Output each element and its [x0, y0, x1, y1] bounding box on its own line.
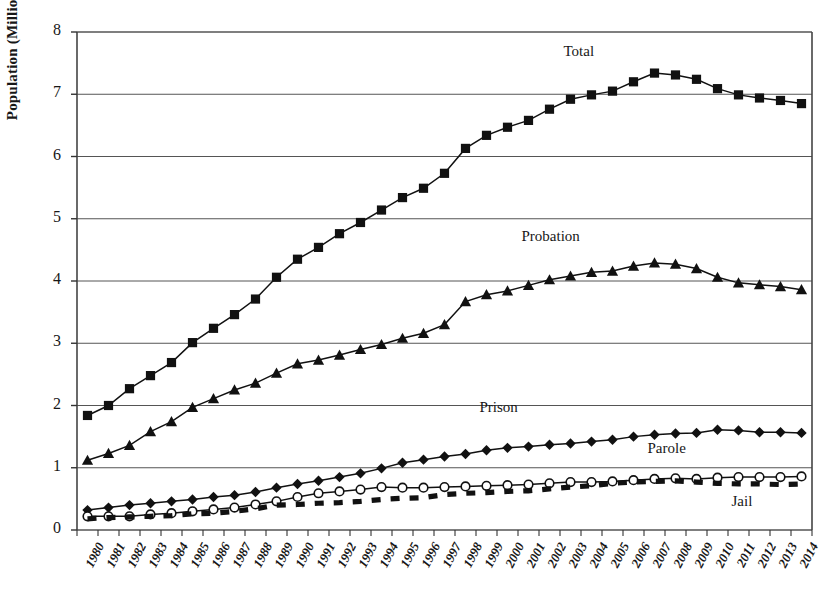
data-point-marker — [187, 402, 198, 412]
series-label-total: Total — [564, 43, 595, 60]
data-point-marker — [125, 384, 134, 393]
data-point-marker — [187, 494, 197, 504]
data-point-marker — [503, 481, 512, 490]
data-point-marker — [356, 485, 365, 494]
data-point-marker — [608, 477, 617, 486]
data-point-marker — [271, 368, 282, 378]
data-point-marker — [272, 273, 281, 282]
data-point-marker — [524, 480, 533, 489]
data-point-marker — [355, 468, 365, 478]
data-point-marker — [377, 483, 386, 492]
data-point-marker — [733, 425, 743, 435]
data-point-marker — [503, 123, 512, 132]
series-line-total — [88, 73, 802, 415]
data-point-marker — [145, 426, 156, 436]
data-point-marker — [734, 90, 743, 99]
data-point-marker — [230, 503, 239, 512]
data-point-marker — [250, 377, 261, 387]
data-point-marker — [419, 483, 428, 492]
data-point-marker — [103, 448, 114, 458]
data-point-marker — [545, 105, 554, 114]
plot-area — [0, 0, 836, 605]
data-point-marker — [629, 476, 638, 485]
y-tick-label: 0 — [31, 519, 61, 537]
data-point-marker — [797, 99, 806, 108]
series-label-probation: Probation — [522, 228, 580, 245]
data-point-marker — [629, 77, 638, 86]
data-point-marker — [124, 440, 135, 450]
data-point-marker — [292, 479, 302, 489]
data-point-marker — [755, 93, 764, 102]
data-point-marker — [250, 487, 260, 497]
data-point-marker — [188, 338, 197, 347]
data-point-marker — [797, 472, 806, 481]
data-point-marker — [377, 205, 386, 214]
data-point-marker — [145, 498, 155, 508]
data-point-marker — [397, 458, 407, 468]
y-tick-label: 7 — [31, 83, 61, 101]
y-tick-label: 8 — [31, 21, 61, 39]
data-point-marker — [229, 490, 239, 500]
data-point-marker — [230, 310, 239, 319]
data-point-marker — [419, 184, 428, 193]
data-point-marker — [271, 482, 281, 492]
data-point-marker — [293, 255, 302, 264]
data-point-marker — [208, 393, 219, 403]
data-point-marker — [481, 445, 491, 455]
data-point-marker — [775, 427, 785, 437]
data-point-marker — [440, 483, 449, 492]
data-point-marker — [607, 435, 617, 445]
data-point-marker — [208, 492, 218, 502]
y-tick-label: 5 — [31, 208, 61, 226]
data-point-marker — [608, 87, 617, 96]
data-point-marker — [461, 144, 470, 153]
data-point-marker — [755, 473, 764, 482]
data-point-marker — [334, 472, 344, 482]
data-point-marker — [251, 294, 260, 303]
y-tick-label: 4 — [31, 270, 61, 288]
data-point-marker — [586, 436, 596, 446]
series-label-parole: Parole — [648, 440, 686, 457]
data-point-marker — [502, 443, 512, 453]
data-point-marker — [523, 441, 533, 451]
data-point-marker — [166, 496, 176, 506]
data-point-marker — [628, 431, 638, 441]
data-point-marker — [649, 430, 659, 440]
data-point-marker — [482, 131, 491, 140]
series-label-jail: Jail — [732, 493, 753, 510]
y-tick-label: 2 — [31, 395, 61, 413]
data-point-marker — [460, 449, 470, 459]
y-tick-label: 6 — [31, 146, 61, 164]
data-point-marker — [418, 328, 429, 338]
data-point-marker — [754, 427, 764, 437]
data-point-marker — [209, 324, 218, 333]
data-point-marker — [691, 428, 701, 438]
data-point-marker — [439, 451, 449, 461]
y-tick-label: 1 — [31, 457, 61, 475]
data-point-marker — [293, 493, 302, 502]
data-point-marker — [565, 438, 575, 448]
data-point-marker — [335, 229, 344, 238]
data-point-marker — [314, 243, 323, 252]
data-point-marker — [314, 489, 323, 498]
y-tick-label: 3 — [31, 332, 61, 350]
data-point-marker — [712, 425, 722, 435]
data-point-marker — [776, 96, 785, 105]
population-line-chart: Population (Millions) 012345678198019811… — [0, 0, 836, 605]
data-point-marker — [167, 358, 176, 367]
data-point-marker — [313, 476, 323, 486]
data-point-marker — [482, 482, 491, 491]
data-point-marker — [398, 193, 407, 202]
data-point-marker — [566, 95, 575, 104]
data-point-marker — [83, 411, 92, 420]
data-point-marker — [671, 70, 680, 79]
data-point-marker — [776, 473, 785, 482]
data-point-marker — [376, 463, 386, 473]
data-point-marker — [356, 218, 365, 227]
data-point-marker — [587, 90, 596, 99]
data-point-marker — [692, 75, 701, 84]
data-point-marker — [146, 371, 155, 380]
data-point-marker — [734, 473, 743, 482]
series-label-prison: Prison — [480, 399, 518, 416]
data-point-marker — [713, 84, 722, 93]
